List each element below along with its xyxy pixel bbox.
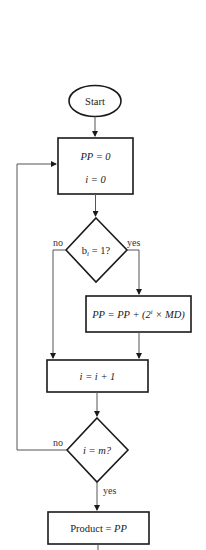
init-box: PP = 0 i = 0 [58, 138, 133, 194]
init-i-label: i = 0 [85, 174, 106, 185]
decision-bit-no-label: no [53, 237, 63, 248]
decision-end-label: i = m? [83, 445, 112, 456]
accumulate-label: PP = PP + (2i × MD) [91, 308, 185, 321]
decision-bit: bi = 1? [66, 218, 127, 282]
connector-loop-back [17, 164, 67, 450]
increment-label: i = i + 1 [80, 371, 116, 382]
accumulate-box: PP = PP + (2i × MD) [86, 296, 191, 332]
increment-box: i = i + 1 [47, 360, 148, 392]
decision-end-no-label: no [53, 437, 63, 448]
connector-bit-no [53, 250, 66, 358]
decision-end-yes-label: yes [103, 485, 116, 496]
decision-end: i = m? [67, 418, 128, 482]
start-label: Start [85, 96, 105, 107]
decision-bit-yes-label: yes [127, 237, 140, 248]
result-box: Product = PP [48, 512, 149, 544]
init-pp-label: PP = 0 [79, 151, 111, 162]
connector-bit-yes [127, 250, 139, 294]
result-label: Product = PP [70, 523, 127, 534]
start-node: Start [69, 86, 121, 117]
flowchart: Start PP = 0 i = 0 bi = 1? no yes PP = P… [0, 0, 206, 550]
